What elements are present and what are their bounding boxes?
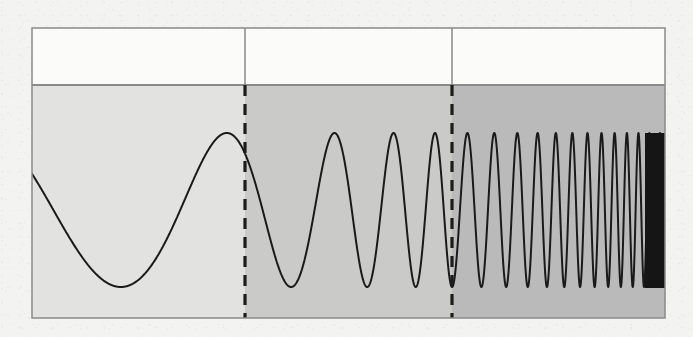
region-2-fill xyxy=(245,85,452,318)
figure-root xyxy=(0,0,693,337)
header-band-fill xyxy=(32,28,665,85)
saturation-block xyxy=(645,133,665,288)
chirp-figure-svg xyxy=(0,0,693,337)
header-band xyxy=(32,28,665,85)
region-1-fill xyxy=(32,85,245,318)
region-fills xyxy=(32,85,665,318)
